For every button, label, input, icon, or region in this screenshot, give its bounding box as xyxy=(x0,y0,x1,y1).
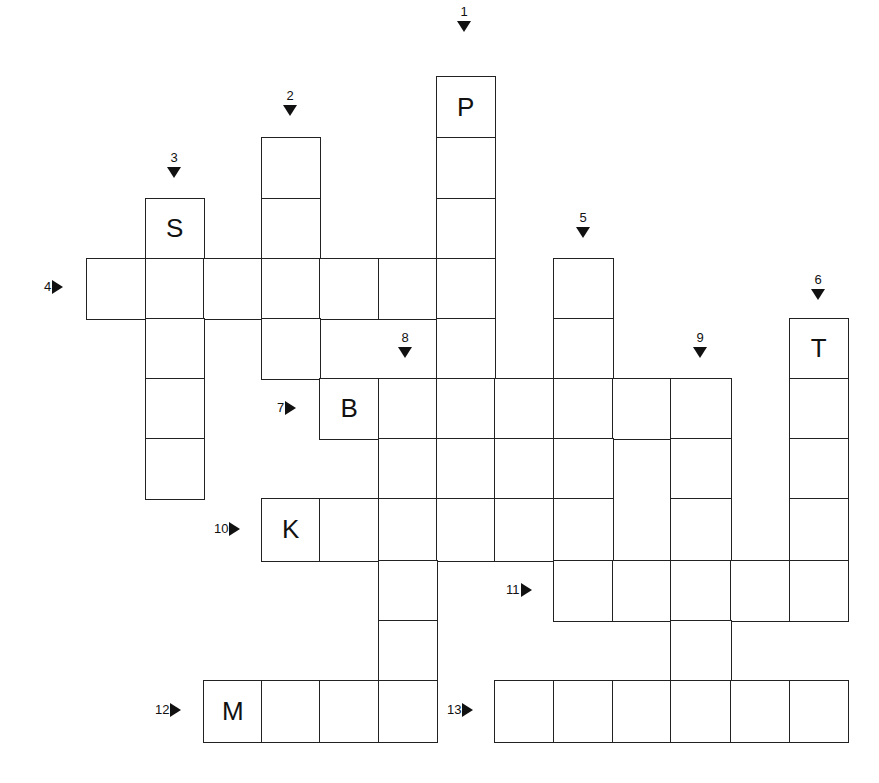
crossword-cell[interactable]: K xyxy=(261,498,321,562)
crossword-cell[interactable] xyxy=(670,378,732,440)
crossword-cell[interactable] xyxy=(789,438,849,500)
crossword-cell[interactable] xyxy=(436,137,496,200)
crossword-cell[interactable] xyxy=(319,258,380,320)
crossword-cell[interactable] xyxy=(378,378,438,440)
crossword-cell[interactable] xyxy=(670,620,732,682)
crossword-cell[interactable] xyxy=(436,258,496,320)
crossword-cell[interactable] xyxy=(553,258,614,320)
crossword-cell[interactable]: P xyxy=(436,76,496,139)
crossword-cell[interactable] xyxy=(730,560,791,622)
crossword-cell[interactable] xyxy=(789,560,849,622)
clue-number-5-down: 5 xyxy=(576,210,590,238)
crossword-cell[interactable] xyxy=(378,620,438,682)
clue-number-label: 11 xyxy=(506,582,520,597)
arrow-right-icon xyxy=(462,703,473,717)
crossword-cell[interactable] xyxy=(378,680,438,743)
crossword-cell[interactable] xyxy=(553,560,614,622)
clue-number-13-across: 13 xyxy=(447,702,473,717)
crossword-cell[interactable] xyxy=(553,498,614,562)
arrow-right-icon xyxy=(52,280,63,294)
crossword-cell[interactable] xyxy=(261,258,321,320)
crossword-cell[interactable] xyxy=(670,498,732,562)
crossword-cell[interactable] xyxy=(261,680,321,743)
crossword-cell[interactable] xyxy=(145,378,205,440)
arrow-down-icon xyxy=(283,105,297,116)
crossword-cell[interactable] xyxy=(553,378,614,440)
crossword-cell[interactable]: S xyxy=(145,198,205,260)
crossword-cell[interactable] xyxy=(494,498,555,562)
arrow-right-icon xyxy=(521,583,532,597)
crossword-grid: PSTBKM12345678910111213 xyxy=(0,0,879,783)
crossword-cell[interactable] xyxy=(378,258,438,320)
arrow-right-icon xyxy=(285,401,296,415)
crossword-cell[interactable] xyxy=(494,438,555,500)
clue-number-label: 13 xyxy=(447,702,461,717)
clue-number-label: 9 xyxy=(696,330,703,345)
clue-number-label: 2 xyxy=(286,88,293,103)
arrow-right-icon xyxy=(229,522,240,536)
crossword-cell[interactable] xyxy=(378,438,438,500)
clue-number-2-down: 2 xyxy=(283,88,297,116)
crossword-cell[interactable] xyxy=(378,498,438,562)
arrow-down-icon xyxy=(398,347,412,358)
arrow-down-icon xyxy=(457,21,471,32)
crossword-cell[interactable] xyxy=(436,438,496,500)
clue-number-label: 4 xyxy=(44,279,51,294)
arrow-down-icon xyxy=(693,347,707,358)
crossword-cell[interactable] xyxy=(436,378,496,440)
clue-number-11-across: 11 xyxy=(506,582,532,597)
crossword-cell[interactable] xyxy=(670,560,732,622)
clue-number-4-across: 4 xyxy=(44,279,63,294)
crossword-cell[interactable] xyxy=(261,198,321,260)
crossword-cell[interactable] xyxy=(203,258,263,320)
crossword-cell[interactable] xyxy=(612,378,672,440)
clue-number-7-across: 7 xyxy=(277,400,296,415)
crossword-cell[interactable]: B xyxy=(319,378,380,440)
crossword-cell[interactable] xyxy=(378,560,438,622)
crossword-cell[interactable] xyxy=(145,258,205,320)
crossword-cell[interactable] xyxy=(553,680,614,743)
crossword-cell[interactable]: T xyxy=(789,318,849,380)
clue-number-1-down: 1 xyxy=(457,4,471,32)
arrow-down-icon xyxy=(167,167,181,178)
crossword-cell[interactable] xyxy=(436,318,496,380)
arrow-right-icon xyxy=(170,703,181,717)
clue-number-label: 8 xyxy=(401,330,408,345)
crossword-cell[interactable] xyxy=(553,318,614,380)
crossword-cell[interactable] xyxy=(612,560,672,622)
clue-number-label: 10 xyxy=(214,521,228,536)
clue-number-label: 7 xyxy=(277,400,284,415)
crossword-cell[interactable] xyxy=(612,680,672,743)
clue-number-3-down: 3 xyxy=(167,150,181,178)
clue-number-8-down: 8 xyxy=(398,330,412,358)
crossword-cell[interactable] xyxy=(789,378,849,440)
crossword-cell[interactable] xyxy=(494,378,555,440)
crossword-cell[interactable] xyxy=(553,438,614,500)
arrow-down-icon xyxy=(811,289,825,300)
crossword-cell[interactable] xyxy=(670,680,732,743)
crossword-cell[interactable] xyxy=(145,438,205,500)
crossword-cell[interactable] xyxy=(670,438,732,500)
crossword-cell[interactable] xyxy=(86,258,147,320)
crossword-cell[interactable] xyxy=(145,318,205,380)
crossword-cell[interactable] xyxy=(261,318,321,380)
clue-number-10-across: 10 xyxy=(214,521,240,536)
clue-number-label: 1 xyxy=(460,4,467,19)
crossword-cell[interactable] xyxy=(261,137,321,200)
crossword-cell[interactable] xyxy=(436,198,496,260)
clue-number-12-across: 12 xyxy=(155,702,181,717)
crossword-cell[interactable] xyxy=(789,680,849,743)
arrow-down-icon xyxy=(576,227,590,238)
clue-number-label: 3 xyxy=(170,150,177,165)
clue-number-6-down: 6 xyxy=(811,272,825,300)
crossword-cell[interactable]: M xyxy=(203,680,263,743)
crossword-cell[interactable] xyxy=(319,680,380,743)
crossword-cell[interactable] xyxy=(730,680,791,743)
clue-number-label: 5 xyxy=(579,210,586,225)
clue-number-label: 12 xyxy=(155,702,169,717)
crossword-cell[interactable] xyxy=(319,498,380,562)
crossword-cell[interactable] xyxy=(789,498,849,562)
crossword-cell[interactable] xyxy=(494,680,555,743)
crossword-cell[interactable] xyxy=(436,498,496,562)
clue-number-9-down: 9 xyxy=(693,330,707,358)
